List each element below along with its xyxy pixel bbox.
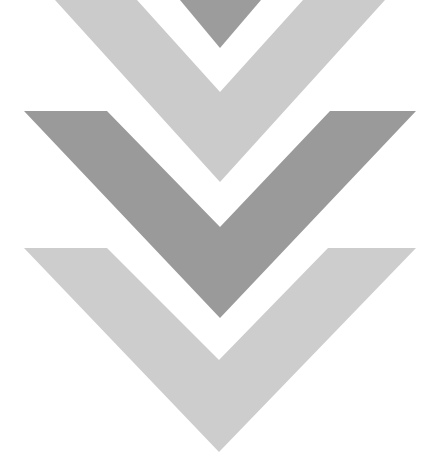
top-triangle-shape [180,0,261,48]
chevron-arrows-graphic [0,0,447,468]
